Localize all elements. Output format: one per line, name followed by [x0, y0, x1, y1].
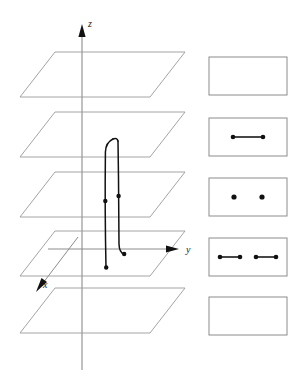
z-axis-arrowhead — [78, 24, 85, 37]
level-set-diagram: z y x — [0, 0, 297, 383]
level-plane-2 — [20, 112, 185, 157]
level-plane-3 — [20, 172, 185, 217]
z-axis-label: z — [87, 18, 92, 29]
slice-panel-2 — [209, 118, 287, 156]
slice-panel-3 — [209, 178, 287, 216]
level-plane-1 — [20, 52, 185, 97]
slice-dot — [231, 194, 236, 199]
z-axis — [78, 24, 85, 370]
curve-point-left-middle — [103, 199, 107, 203]
slice-dot — [238, 255, 243, 260]
curve-point-right-lower — [122, 252, 126, 256]
y-axis — [48, 245, 179, 252]
slice-panel-1 — [209, 57, 287, 95]
curve-point-right-middle — [116, 194, 120, 198]
curve-marked-points — [103, 194, 126, 270]
slice-panel-5 — [209, 297, 287, 335]
level-plane-5 — [20, 288, 185, 333]
curve-point-left-lower — [104, 265, 108, 269]
level-plane-4 — [20, 231, 185, 276]
slice-dot — [274, 255, 279, 260]
slice-dot — [254, 255, 259, 260]
slice-dot — [218, 255, 223, 260]
slice-dot — [261, 135, 266, 140]
slice-panel-4 — [209, 238, 287, 276]
closed-loop-curve — [105, 138, 124, 267]
x-axis-label: x — [42, 279, 48, 290]
slice-dot — [259, 194, 264, 199]
y-axis-label: y — [185, 244, 191, 255]
slice-dot — [231, 135, 236, 140]
